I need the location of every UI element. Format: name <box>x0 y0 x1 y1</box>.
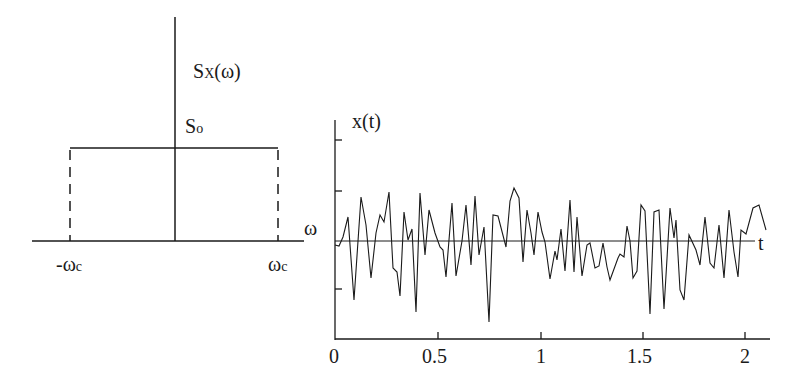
x-tick-0-5: 0.5 <box>422 345 447 368</box>
left-cutoff-label: -ωc <box>56 253 82 276</box>
signal-trace <box>335 188 766 322</box>
level-label: So <box>185 115 203 138</box>
time-axis-label: t <box>758 232 764 255</box>
x-tick-1: 1 <box>536 345 546 368</box>
signal-y-label: x(t) <box>352 110 381 133</box>
omega-axis-label: ω <box>304 217 317 240</box>
spectral-density-label: SX(ω) <box>193 60 241 83</box>
diagram-canvas <box>0 0 799 383</box>
x-tick-2: 2 <box>740 345 750 368</box>
sample-function-plot <box>335 120 770 340</box>
spectral-density-plot <box>32 17 304 241</box>
x-tick-0: 0 <box>329 345 339 368</box>
right-cutoff-label: ωc <box>268 253 287 276</box>
x-tick-1-5: 1.5 <box>627 345 652 368</box>
